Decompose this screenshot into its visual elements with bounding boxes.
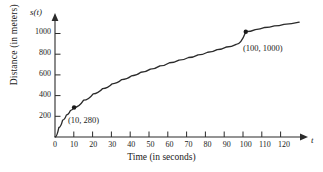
y-axis-symbol-label: s(t) xyxy=(30,8,42,17)
x-tick-label: 100 xyxy=(236,141,256,149)
x-tick-label: 90 xyxy=(217,141,237,149)
x-tick-label: 60 xyxy=(159,141,179,149)
x-tick-label: 10 xyxy=(64,141,84,149)
y-tick-label: 800 xyxy=(25,49,51,57)
x-tick-label: 50 xyxy=(140,141,160,149)
data-point-marker[interactable] xyxy=(244,29,248,33)
chart-figure: Distance (in meters) Time (in seconds) s… xyxy=(0,0,323,172)
y-tick-label: 400 xyxy=(25,91,51,99)
x-axis-title: Time (in seconds) xyxy=(0,153,323,163)
x-tick-label: 80 xyxy=(198,141,218,149)
y-tick-marks xyxy=(55,34,61,117)
data-point-marker[interactable] xyxy=(72,105,76,109)
y-tick-label: 1000 xyxy=(25,28,51,36)
annotation-label: (100, 1000) xyxy=(243,44,283,53)
x-tick-label: 20 xyxy=(83,141,103,149)
y-tick-label: 200 xyxy=(25,112,51,120)
x-tick-label: 40 xyxy=(121,141,141,149)
x-axis-arrowhead xyxy=(300,134,308,141)
x-tick-label: 70 xyxy=(179,141,199,149)
x-axis-symbol-label: t xyxy=(311,136,314,145)
x-tick-marks xyxy=(74,132,281,138)
x-tick-label: 0 xyxy=(45,141,65,149)
y-tick-label: 600 xyxy=(25,70,51,78)
y-axis-arrowhead xyxy=(52,13,59,21)
x-tick-label: 30 xyxy=(102,141,122,149)
x-tick-label: 120 xyxy=(274,141,294,149)
x-tick-label: 110 xyxy=(255,141,275,149)
annotation-label: (10, 280) xyxy=(68,116,99,125)
y-axis-title: Distance (in meters) xyxy=(10,0,20,100)
